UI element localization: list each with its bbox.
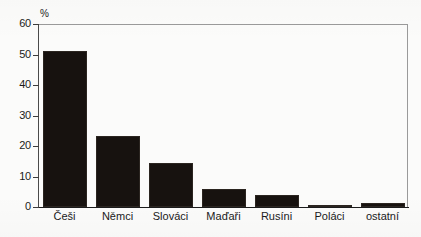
bar [149,163,193,207]
y-axis-tick-label: 20 [7,139,31,151]
x-axis-category-labels: ČešiNěmciSlováciMaďařiRusíniPoláciostatn… [38,210,409,232]
y-axis-tick-label: 0 [7,200,31,212]
chart-screenshot: % 0102030405060 ČešiNěmciSlováciMaďařiRu… [0,0,421,237]
bar [361,203,405,207]
x-axis-category-label: Rusíni [250,210,303,222]
y-axis-tick-labels: 0102030405060 [2,0,31,237]
y-axis-tick-label: 10 [7,170,31,182]
y-axis-tick-label: 40 [7,78,31,90]
y-axis-tick-label: 50 [7,48,31,60]
bar [96,136,140,207]
bar [255,195,299,207]
y-axis-tick [33,207,39,208]
y-axis-tick-label: 30 [7,109,31,121]
bars-layer [38,24,409,207]
x-axis-category-label: Slováci [144,210,197,222]
y-axis-tick-label: 60 [7,17,31,29]
y-axis-unit-label: % [40,8,49,19]
x-axis-category-label: Maďaři [197,210,250,222]
x-axis-category-label: Češi [38,210,91,222]
x-axis-category-label: ostatní [356,210,409,222]
x-axis-category-label: Poláci [303,210,356,222]
bar [43,51,87,207]
x-axis-line [38,207,409,208]
bar [202,189,246,207]
bar [308,205,352,207]
x-axis-category-label: Němci [91,210,144,222]
